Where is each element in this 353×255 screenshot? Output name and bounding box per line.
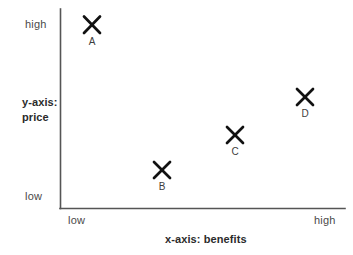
plot-background [0,0,353,255]
data-point-label-d: D [301,108,308,119]
y-axis-title-line1: y-axis: [22,96,58,108]
plot-area-svg [0,0,353,255]
x-axis-title: x-axis: benefits [165,233,247,245]
scatter-plot-figure: high low y-axis: price low high x-axis: … [0,0,353,255]
data-point-label-c: C [231,146,238,157]
x-axis-tick-low: low [68,214,85,226]
y-axis-tick-high: high [25,18,47,30]
x-axis-tick-high: high [314,214,336,226]
y-axis-tick-low: low [25,190,42,202]
data-point-label-b: B [159,181,166,192]
y-axis-title-line2: price [22,111,49,123]
data-point-label-a: A [89,36,96,47]
y-axis-title: y-axis: price [22,95,62,125]
